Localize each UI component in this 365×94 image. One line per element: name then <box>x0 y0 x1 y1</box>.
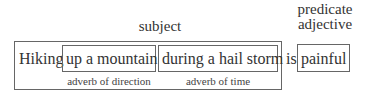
phrase2-text: during a hail storm <box>162 51 283 67</box>
verb-text: is <box>286 51 297 67</box>
head-word: Hiking <box>19 51 63 67</box>
phrase1-annotation: adverb of direction <box>62 76 156 87</box>
subject-label: subject <box>100 19 220 34</box>
phrase2-annotation: adverb of time <box>158 76 278 87</box>
predicate-text: painful <box>301 51 346 67</box>
predicate-label-line2: adjective <box>290 17 360 32</box>
predicate-label-line1: predicate <box>290 2 360 17</box>
phrase1-text: up a mountain <box>66 51 158 67</box>
